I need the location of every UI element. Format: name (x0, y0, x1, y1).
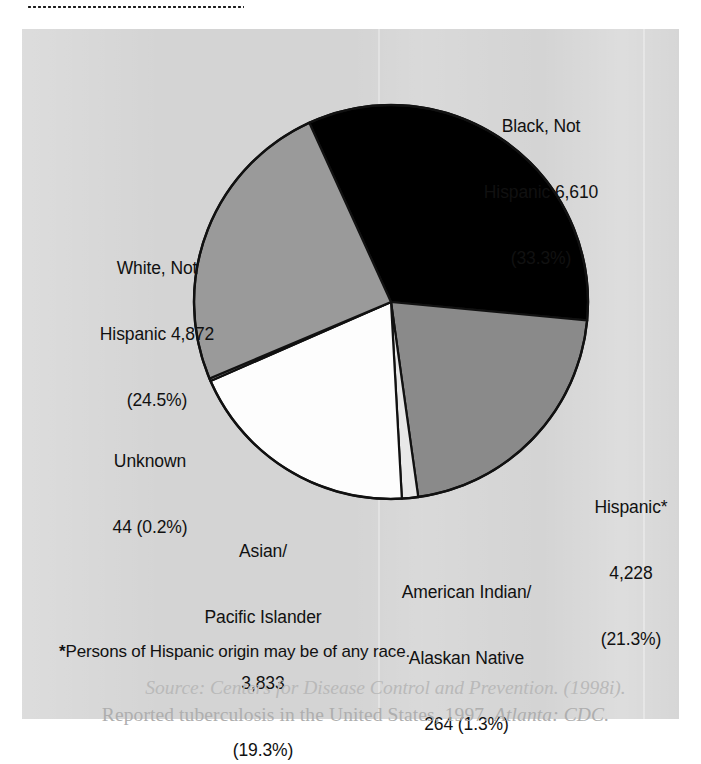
slice-label-line: Black, Not (446, 115, 636, 137)
source-line2-b: Atlanta: CDC. (494, 704, 609, 725)
slice-label-black-not-hispanic: Black, Not Hispanic 6,610 (33.3%) (446, 71, 636, 314)
source-citation: Source: Centers for Disease Control and … (32, 675, 679, 729)
source-line-2: Reported tuberculosis in the United Stat… (32, 702, 679, 729)
slice-label-line: Hispanic* (556, 496, 701, 518)
slice-label-line: Asian/ (168, 540, 358, 562)
footnote: *Persons of Hispanic origin may be of an… (59, 642, 410, 662)
slice-label-line: (21.3%) (556, 628, 701, 650)
slice-label-line: American Indian/ (359, 581, 574, 603)
source-line2-a: Reported tuberculosis in the United Stat… (102, 704, 494, 725)
slice-label-line: Unknown (70, 450, 230, 472)
slice-label-line: Hispanic 6,610 (446, 181, 636, 203)
source-label: Source: (145, 677, 205, 698)
footnote-text: Persons of Hispanic origin may be of any… (65, 642, 410, 661)
slice-label-line: Hispanic 4,872 (57, 323, 257, 345)
dotted-rule-divider (27, 5, 244, 9)
source-line1-rest: Centers for Disease Control and Preventi… (205, 677, 625, 698)
slice-label-line: 4,228 (556, 562, 701, 584)
slice-label-line: Pacific Islander (168, 606, 358, 628)
slice-label-hispanic: Hispanic* 4,228 (21.3%) (556, 452, 701, 695)
slice-label-line: (33.3%) (446, 247, 636, 269)
slice-label-line: (19.3%) (168, 739, 358, 761)
source-line-1: Source: Centers for Disease Control and … (32, 675, 679, 702)
slice-label-line: White, Not (57, 257, 257, 279)
figure-panel: Black, Not Hispanic 6,610 (33.3%) White,… (22, 29, 679, 719)
